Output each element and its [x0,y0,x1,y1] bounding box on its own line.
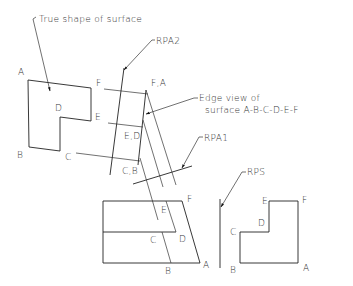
label-C: C [230,227,237,237]
label-B: B [230,265,236,275]
label-B: B [165,266,171,276]
rps-label: RPS [247,167,265,177]
true-shape-annotation: True shape of surface [39,14,142,24]
label-A: A [303,263,309,273]
label-ED: E,D [124,131,140,141]
label-FA: F,A [151,78,166,88]
label-A: A [18,67,24,77]
front-view: E F C D B A [103,194,209,276]
true-shape-view: A B C D E F [17,67,101,162]
label-E: E [262,196,268,206]
label-B: B [17,150,23,160]
edge-view-leader: Edge view of surface A-B-C-D-E-F [146,93,299,115]
label-E: E [161,205,167,215]
side-view: E F D C B A [230,195,309,275]
label-D: D [258,218,265,228]
label-D: D [55,103,62,113]
rpa1-label: RPA1 [204,133,228,143]
edge-view: F,A E,D C,B [122,78,176,220]
label-A: A [203,260,209,270]
projection-lines [76,89,148,161]
true-shape-leader: True shape of surface [33,14,142,91]
rpa2-reference-line: RPA2 [110,36,180,175]
edge-view-annotation-2: surface A-B-C-D-E-F [205,105,299,115]
edge-view-annotation-1: Edge view of [199,93,261,103]
auxiliary-view-drawing: A B C D E F True shape of surface RPA2 F… [0,0,353,286]
label-CB: C,B [122,166,138,176]
label-E: E [95,112,101,122]
rpa2-label: RPA2 [156,36,180,46]
rpa1-reference-line: RPA1 [133,133,228,184]
label-C: C [150,235,157,245]
label-D: D [179,234,186,244]
label-F: F [302,195,307,205]
label-F: F [187,194,192,204]
label-C: C [65,152,72,162]
label-F: F [96,78,101,88]
